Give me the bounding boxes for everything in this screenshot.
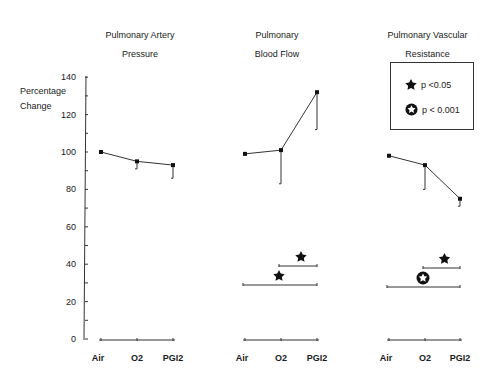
x-category-label: Air	[380, 353, 393, 363]
data-point	[387, 154, 391, 158]
significance-bracket	[387, 272, 460, 289]
y-tick-label: 100	[61, 147, 76, 157]
y-tick-label: 0	[71, 334, 76, 344]
y-tick-label: 80	[66, 184, 76, 194]
legend-item-p005: p <0.05	[405, 79, 451, 91]
filled-star-icon	[295, 251, 306, 262]
data-line	[245, 92, 317, 154]
x-category-label: PGI2	[307, 353, 328, 363]
legend: p <0.05 p < 0.001	[390, 62, 474, 130]
panel-pbf: AirO2PGI2	[236, 90, 328, 363]
x-category-label: PGI2	[450, 353, 471, 363]
y-tick-label: 20	[66, 297, 76, 307]
data-point	[315, 90, 319, 94]
outlined-star-icon	[405, 103, 418, 116]
data-point	[171, 163, 175, 167]
y-tick-label: 40	[66, 259, 76, 269]
y-tick-label: 60	[66, 222, 76, 232]
filled-star-icon	[405, 79, 417, 91]
panel-pvr: AirO2PGI2	[380, 154, 471, 363]
x-category-label: PGI2	[163, 353, 184, 363]
significance-bracket	[423, 253, 460, 269]
panel-pap: AirO2PGI2	[92, 150, 184, 363]
data-point	[458, 197, 462, 201]
filled-star-icon	[439, 253, 450, 264]
data-point	[135, 159, 139, 163]
legend-label: p <0.05	[421, 80, 451, 90]
x-category-label: O2	[131, 353, 143, 363]
y-axis	[84, 76, 88, 340]
significance-bracket	[243, 270, 317, 286]
x-category-label: O2	[275, 353, 287, 363]
data-point	[243, 152, 247, 156]
legend-item-p0001: p < 0.001	[405, 103, 460, 116]
significance-bracket	[279, 251, 317, 267]
data-point	[279, 148, 283, 152]
x-category-label: Air	[92, 353, 105, 363]
filled-star-icon	[273, 270, 284, 281]
x-category-label: Air	[236, 353, 249, 363]
panels: AirO2PGI2AirO2PGI2AirO2PGI2	[92, 90, 471, 363]
x-category-label: O2	[419, 353, 431, 363]
legend-label: p < 0.001	[422, 105, 460, 115]
y-tick-label: 120	[61, 110, 76, 120]
y-tick-label: 140	[61, 72, 76, 82]
outlined-star-icon	[417, 272, 430, 285]
chart-canvas: 020406080100120140 AirO2PGI2AirO2PGI2Air…	[0, 0, 500, 383]
y-tick-labels: 020406080100120140	[61, 72, 76, 344]
data-point	[99, 150, 103, 154]
data-point	[423, 163, 427, 167]
